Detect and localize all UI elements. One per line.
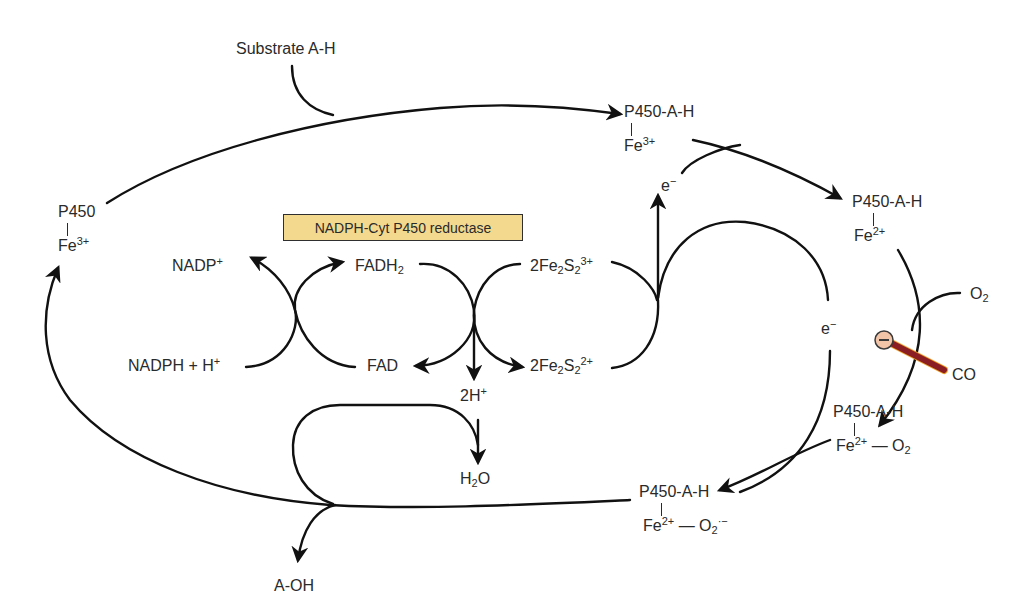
proton-charge: + bbox=[214, 355, 220, 367]
product-exit-line bbox=[298, 505, 335, 560]
fes-text: S bbox=[564, 257, 575, 274]
oxygen-symbol: O bbox=[970, 285, 982, 302]
nadph-text: NADPH + H bbox=[128, 357, 214, 374]
oxygen-subscript: 2 bbox=[905, 444, 911, 456]
iron-charge: 3+ bbox=[643, 135, 656, 147]
iron-charge: 3+ bbox=[77, 235, 90, 247]
arc-oxy-to-superoxide bbox=[720, 440, 830, 490]
enzyme-label-box: NADPH-Cyt P450 reductase bbox=[283, 214, 523, 241]
water-text: O bbox=[478, 470, 490, 487]
electron-symbol: e bbox=[661, 177, 670, 194]
electron-symbol: e bbox=[821, 320, 830, 337]
iron-charge: 2+ bbox=[662, 515, 675, 527]
nadph-label: NADPH + H+ bbox=[128, 357, 220, 375]
fadh2-subscript: 2 bbox=[398, 264, 404, 276]
state-p450-ah-fe2-o2: P450-A-H Fe2+ — O2 bbox=[833, 403, 911, 455]
superoxide-charge: ·− bbox=[718, 515, 728, 527]
electron-2-label: e− bbox=[821, 320, 836, 338]
substrate-label: Substrate A-H bbox=[236, 40, 336, 58]
water-label: H2O bbox=[460, 470, 490, 488]
fadh2-label: FADH2 bbox=[355, 257, 404, 275]
nadp-text: NADP bbox=[172, 257, 216, 274]
arc-return-to-p450 bbox=[46, 268, 630, 507]
fadh2-to-fad-arrow bbox=[416, 264, 474, 366]
iron-label: Fe bbox=[836, 437, 855, 454]
enzyme-label: NADPH-Cyt P450 reductase bbox=[315, 220, 492, 236]
iron-charge: 2+ bbox=[873, 225, 886, 237]
state-p450-ah-fe3: P450-A-H Fe3+ bbox=[624, 103, 694, 155]
nadp-charge: + bbox=[216, 255, 222, 267]
state-p450-ah-superoxide: P450-A-H Fe2+ — O2·− bbox=[639, 483, 728, 535]
co-label: CO bbox=[952, 366, 976, 384]
fes-oxidized-label: 2Fe2S23+ bbox=[530, 257, 593, 275]
state-top-label: P450 bbox=[58, 203, 95, 220]
bond-line bbox=[67, 223, 68, 236]
pathway-lines bbox=[0, 0, 1025, 612]
fad-label: FAD bbox=[367, 357, 398, 375]
protons-text: 2H bbox=[460, 387, 480, 404]
iron-charge: 2+ bbox=[855, 435, 868, 447]
nadph-to-nadp-arrow bbox=[246, 258, 296, 367]
bond-line bbox=[631, 123, 632, 136]
oxygen-bond-label: — O bbox=[674, 517, 711, 534]
oxygen-subscript: 2 bbox=[982, 292, 988, 304]
water-loop-line bbox=[293, 405, 478, 504]
fes-text: 2Fe bbox=[530, 257, 558, 274]
arc-p450-to-substrate-complex bbox=[107, 105, 620, 203]
state-top-label: P450-A-H bbox=[852, 193, 922, 210]
fes-text: 2Fe bbox=[530, 357, 558, 374]
electron-charge: − bbox=[670, 175, 676, 187]
fes-red-loop-line bbox=[612, 300, 658, 368]
nadp-label: NADP+ bbox=[172, 257, 223, 275]
iron-label: Fe bbox=[854, 227, 873, 244]
fes-text: S bbox=[564, 357, 575, 374]
fes-ox-to-fes-red-arrow bbox=[474, 264, 522, 367]
electron-2-line bbox=[740, 351, 830, 492]
fadh2-text: FADH bbox=[355, 257, 398, 274]
product-label: A-OH bbox=[274, 577, 314, 595]
state-top-label: P450-A-H bbox=[624, 103, 694, 120]
state-p450-fe3: P450 Fe3+ bbox=[58, 203, 95, 255]
protons-charge: + bbox=[480, 385, 486, 397]
oxygen-label: O2 bbox=[970, 285, 989, 303]
state-top-label: P450-A-H bbox=[639, 483, 709, 500]
protons-label: 2H+ bbox=[460, 387, 487, 405]
state-top-label: P450-A-H bbox=[833, 403, 903, 420]
iron-label: Fe bbox=[624, 137, 643, 154]
fes-charge: 2+ bbox=[581, 355, 594, 367]
arc-fe3-to-fe2 bbox=[693, 140, 840, 198]
iron-label: Fe bbox=[643, 517, 662, 534]
iron-label: Fe bbox=[58, 237, 77, 254]
state-p450-ah-fe2: P450-A-H Fe2+ bbox=[852, 193, 922, 245]
fad-to-fadh2-arrow bbox=[295, 262, 355, 367]
oxygen-bond-label: — O bbox=[867, 437, 904, 454]
electron-1-label: e− bbox=[661, 177, 676, 195]
fes-ox-return-line bbox=[612, 262, 657, 300]
electron-charge: − bbox=[830, 318, 836, 330]
fes-charge: 3+ bbox=[581, 255, 594, 267]
water-text: H bbox=[460, 470, 472, 487]
fes-reduced-label: 2Fe2S22+ bbox=[530, 357, 593, 375]
substrate-entry-line bbox=[292, 66, 333, 115]
electron-2-arc bbox=[658, 222, 828, 300]
